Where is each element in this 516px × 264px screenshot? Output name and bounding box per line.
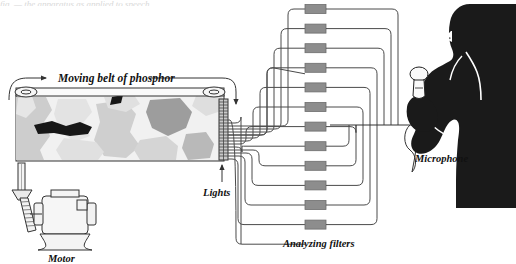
lights-array xyxy=(219,99,228,160)
output-wiring xyxy=(326,9,398,225)
filter-block xyxy=(305,142,326,151)
filter-block xyxy=(305,63,326,72)
lights-label: Lights xyxy=(202,187,230,198)
figure-canvas: fig. — the apparatus as applied to speec… xyxy=(0,0,516,264)
motor-label: Motor xyxy=(47,253,76,264)
filter-block xyxy=(305,181,326,190)
motor-drive xyxy=(12,163,96,250)
filter-block xyxy=(305,24,326,33)
filter-block xyxy=(305,83,326,92)
filters-label: Analyzing filters xyxy=(282,238,354,249)
analyzing-filters xyxy=(305,5,326,230)
filter-block xyxy=(305,5,326,14)
filter-block xyxy=(305,161,326,170)
filter-block xyxy=(305,201,326,210)
filter-block xyxy=(305,44,326,53)
microphone-label: Microphone xyxy=(414,153,468,164)
filter-block xyxy=(305,103,326,112)
diagram-svg: Moving belt of phosphor xyxy=(0,0,516,264)
filter-block xyxy=(305,220,326,229)
input-wiring xyxy=(228,9,305,244)
filter-block xyxy=(305,122,326,131)
phosphor-belt xyxy=(16,88,224,161)
belt-label: Moving belt of phosphor xyxy=(57,72,175,85)
